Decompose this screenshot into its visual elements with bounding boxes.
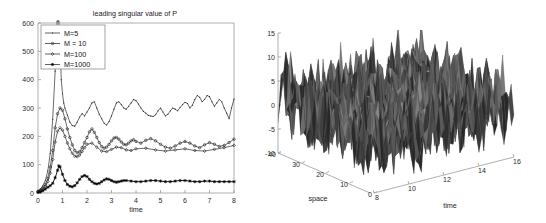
left-plot-xlabel: time — [129, 205, 143, 214]
left-xtick-label: 1 — [61, 197, 65, 204]
right-timetick-label: 8 — [375, 194, 379, 201]
right-spacetick-label: 0 — [368, 191, 372, 198]
left-xtick-label: 8 — [232, 197, 236, 204]
left-plot-title: leading singular value of P — [93, 9, 178, 18]
series-2 — [37, 107, 236, 193]
legend-label: M=100 — [64, 50, 86, 59]
right-plot-ylabel: space — [308, 194, 327, 203]
right-spacetick-label: 40 — [268, 151, 276, 158]
right-timetick-label: 16 — [513, 158, 521, 165]
left-plot-legend[interactable]: M=5M = 10M=100M=1000 — [41, 25, 105, 69]
right-ztick-label: 10 — [267, 54, 275, 61]
left-plot-x-tick-group: 012345678 — [36, 190, 236, 204]
right-timetick-label: 12 — [443, 176, 451, 183]
left-xtick-label: 5 — [159, 197, 163, 204]
right-spacetick-label: 10 — [340, 181, 348, 188]
left-xtick-label: 3 — [110, 197, 114, 204]
right-spacetick-label: 30 — [292, 161, 300, 168]
left-plot-svg: leading singular value of P 010020030040… — [0, 0, 262, 223]
leading-singular-value-plot: leading singular value of P 010020030040… — [0, 0, 262, 223]
left-ytick-label: 300 — [22, 105, 34, 112]
left-ytick-label: 0 — [30, 190, 34, 197]
left-xtick-label: 4 — [134, 197, 138, 204]
left-ytick-label: 100 — [22, 161, 34, 168]
left-xtick-label: 6 — [183, 197, 187, 204]
left-xtick-label: 2 — [85, 197, 89, 204]
series-4 — [36, 164, 235, 194]
legend-label: M = 10 — [64, 39, 86, 48]
right-ztick-label: -5 — [269, 126, 275, 133]
right-ztick-label: 0 — [271, 102, 275, 109]
left-ytick-label: 600 — [22, 20, 34, 27]
left-ytick-label: 200 — [22, 133, 34, 140]
figure-canvas: leading singular value of P 010020030040… — [0, 0, 546, 223]
right-timetick-label: 10 — [408, 185, 416, 192]
legend-label: M=1000 — [64, 60, 90, 69]
left-ytick-label: 500 — [22, 48, 34, 55]
surface-mesh — [278, 22, 514, 175]
right-spacetick-label: 20 — [316, 171, 324, 178]
right-ztick-label: 15 — [267, 30, 275, 37]
right-plot-svg: -10-5051015 010203040 810121416 space ti… — [262, 0, 546, 223]
right-plot-xlabel: time — [443, 201, 457, 210]
left-ytick-label: 400 — [22, 76, 34, 83]
space-time-surface-plot: -10-5051015 010203040 810121416 space ti… — [262, 0, 546, 223]
left-xtick-label: 7 — [208, 197, 212, 204]
legend-label: M=5 — [64, 29, 78, 38]
right-ztick-label: 5 — [271, 78, 275, 85]
left-xtick-label: 0 — [36, 197, 40, 204]
right-plot-z-tick-group: -10-5051015 — [265, 30, 281, 157]
right-timetick-label: 14 — [478, 167, 486, 174]
